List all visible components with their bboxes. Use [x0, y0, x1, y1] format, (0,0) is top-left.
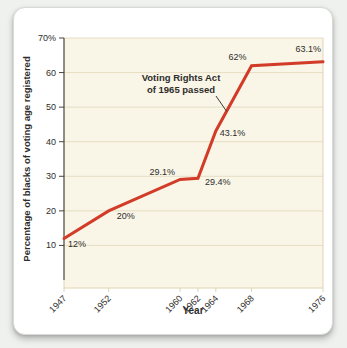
page-background: 70%6050403020101947195219601962196419681… — [0, 0, 347, 348]
x-axis-title: Year — [182, 305, 203, 316]
data-point-label: 12% — [68, 239, 86, 249]
data-point-label: 62% — [229, 52, 247, 62]
annotation-text-line1: Voting Rights Act — [142, 72, 221, 83]
y-tick-label: 70% — [38, 33, 56, 43]
annotation-text-line2: of 1965 passed — [147, 84, 215, 95]
y-axis-title: Percentage of blacks of voting age regis… — [21, 56, 32, 262]
y-tick-label: 20 — [46, 206, 56, 216]
y-tick-label: 30 — [46, 171, 56, 181]
data-point-label: 63.1% — [295, 44, 321, 54]
y-tick-label: 40 — [46, 137, 56, 147]
data-point-label: 20% — [117, 211, 135, 221]
x-tick-label: 1952 — [92, 293, 113, 314]
x-tick-label: 1968 — [235, 293, 256, 314]
y-tick-label: 50 — [46, 102, 56, 112]
x-tick-label: 1960 — [163, 293, 184, 314]
y-tick-label: 60 — [46, 68, 56, 78]
x-tick-label: 1947 — [47, 293, 68, 314]
y-tick-label: 10 — [46, 240, 56, 250]
data-point-label: 29.1% — [150, 167, 176, 177]
data-point-label: 43.1% — [220, 128, 246, 138]
chart-card: 70%6050403020101947195219601962196419681… — [13, 7, 333, 335]
line-chart: 70%6050403020101947195219601962196419681… — [14, 8, 332, 334]
x-tick-label: 1976 — [306, 293, 327, 314]
data-point-label: 29.4% — [205, 177, 231, 187]
